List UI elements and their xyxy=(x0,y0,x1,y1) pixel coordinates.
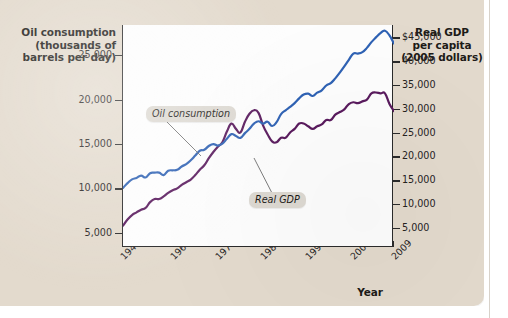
right-tick-mark xyxy=(393,61,400,62)
figure-panel: Oil consumption (thousands of barrels pe… xyxy=(0,0,484,306)
right-tick-label: 40,000 xyxy=(402,56,462,66)
right-tick-label: 5,000 xyxy=(402,223,462,233)
left-tick-label: 10,000 xyxy=(56,183,112,193)
right-tick-label: 20,000 xyxy=(402,151,462,161)
right-tick-label: 25,000 xyxy=(402,128,462,138)
left-tick-mark xyxy=(115,55,122,56)
page-margin-right xyxy=(484,0,508,318)
page-edge-rule xyxy=(489,0,490,318)
callout-oil-consumption: Oil consumption xyxy=(146,106,236,122)
right-tick-label: 30,000 xyxy=(402,104,462,114)
left-tick-label: 20,000 xyxy=(56,95,112,105)
left-tick-mark xyxy=(115,233,122,234)
left-tick-label: 25,000 xyxy=(56,50,112,60)
right-tick-label: $45,000 xyxy=(402,32,462,42)
callout-leader-lines xyxy=(163,118,273,195)
x-axis-title: Year xyxy=(330,286,410,299)
callout-real-gdp: Real GDP xyxy=(249,192,306,208)
right-tick-mark xyxy=(393,228,400,229)
left-tick-mark xyxy=(115,144,122,145)
right-tick-label: 35,000 xyxy=(402,80,462,90)
right-tick-mark xyxy=(393,37,400,38)
right-tick-mark xyxy=(393,133,400,134)
right-tick-label: 10,000 xyxy=(402,199,462,209)
chart-svg xyxy=(123,25,394,247)
right-tick-mark xyxy=(393,109,400,110)
page-margin-bottom xyxy=(0,306,508,318)
left-tick-mark xyxy=(115,188,122,189)
left-tick-label: 5,000 xyxy=(56,228,112,238)
left-axis-title-line1: Oil consumption xyxy=(6,26,116,39)
right-tick-mark xyxy=(393,156,400,157)
right-tick-mark xyxy=(393,85,400,86)
left-tick-label: 15,000 xyxy=(56,139,112,149)
left-tick-mark xyxy=(115,100,122,101)
right-tick-mark xyxy=(393,180,400,181)
plot-area xyxy=(122,25,393,247)
right-tick-mark xyxy=(393,204,400,205)
right-tick-label: 15,000 xyxy=(402,175,462,185)
